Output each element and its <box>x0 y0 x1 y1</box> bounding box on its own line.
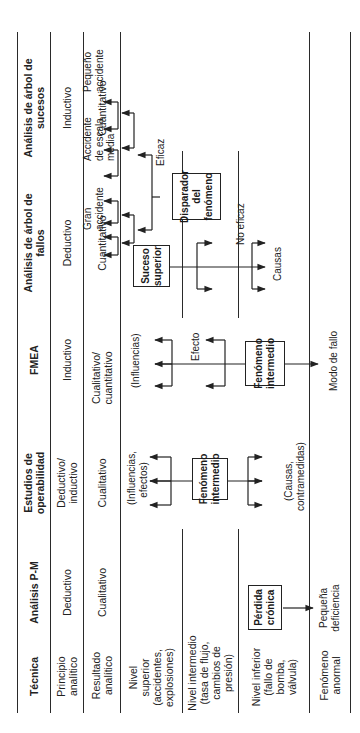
fmea-effect-label: Efecto <box>190 333 202 361</box>
pm-output-label: Pequeña deficiencia <box>318 583 341 633</box>
fmea-box: Fenómeno intermedio <box>245 341 285 386</box>
diagram-connectors <box>0 0 360 733</box>
fta-down-label: Causas <box>272 247 284 281</box>
hazop-down-label: (Causas, contramedidas) <box>283 451 306 511</box>
pm-box: Pérdida crónica <box>248 585 282 630</box>
eta-outcome-large: Gran accidente <box>82 182 105 230</box>
fmea-down-label: Modo de fallo <box>328 331 340 391</box>
hazop-box: Fenómeno intermedio <box>192 458 228 500</box>
eta-box: Disparador del fenómeno <box>172 173 221 220</box>
rotated-table: Técnica Análisis P-M Estudios de operabi… <box>0 0 360 733</box>
eta-no-label: No eficaz <box>235 203 247 245</box>
fmea-up-label: (Influencias) <box>130 334 142 388</box>
hazop-up-label: (Influencias, efectos) <box>126 455 149 505</box>
eta-yes-label: Eficaz <box>155 139 167 166</box>
fta-box: Suceso superior <box>133 245 170 287</box>
eta-outcome-small: Pequeño accidente <box>82 44 105 92</box>
eta-outcome-medium: Accidente de escala media <box>82 109 117 161</box>
